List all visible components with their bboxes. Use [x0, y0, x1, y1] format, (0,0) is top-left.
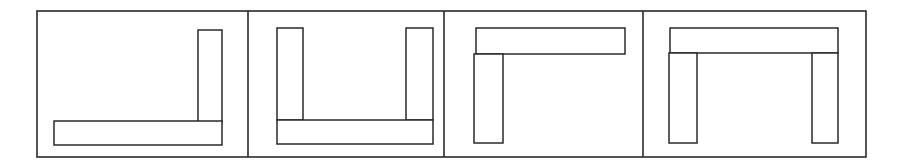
bar-vertical-right — [198, 30, 222, 122]
bar-vertical-left — [669, 53, 697, 143]
bar-vertical-right — [406, 28, 433, 120]
bar-horizontal-top — [476, 28, 625, 54]
bar-horizontal-bottom — [277, 120, 433, 144]
bar-horizontal-top — [670, 28, 838, 53]
bar-vertical-left — [474, 54, 503, 143]
panels — [54, 28, 838, 145]
bar-arrangement-diagram — [0, 0, 904, 164]
panel-2-u-shape — [277, 28, 433, 144]
panel-3-gamma-shape — [474, 28, 625, 143]
bar-vertical-right — [812, 53, 838, 143]
bar-vertical-left — [277, 28, 303, 120]
panel-4-pi-shape — [669, 28, 838, 143]
bar-horizontal-bottom — [54, 121, 222, 145]
panel-1-j-shape — [54, 30, 222, 145]
